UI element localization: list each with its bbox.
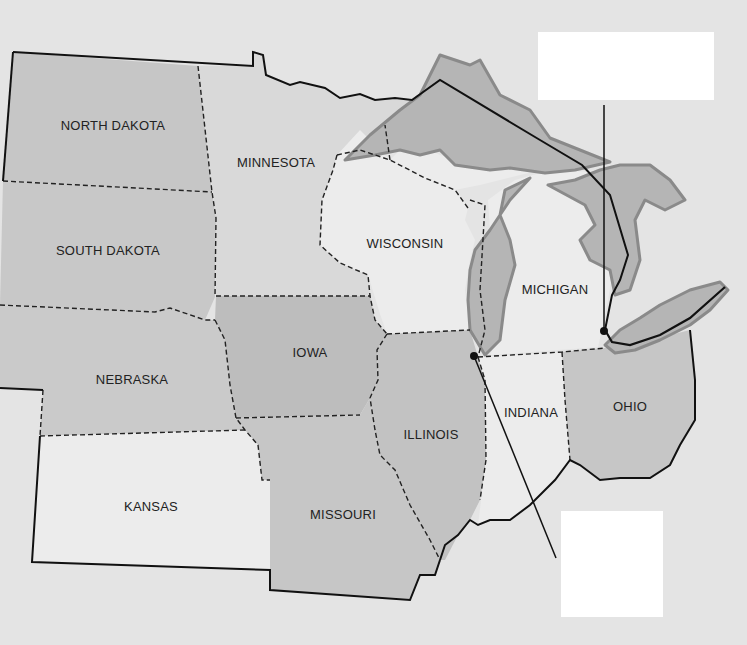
label-kansas: KANSAS bbox=[124, 499, 178, 514]
label-box-top[interactable] bbox=[538, 32, 714, 100]
label-illinois: ILLINOIS bbox=[403, 427, 458, 442]
label-missouri: MISSOURI bbox=[310, 507, 376, 522]
label-indiana: INDIANA bbox=[504, 405, 558, 420]
label-south-dakota: SOUTH DAKOTA bbox=[56, 243, 160, 258]
midwest-map: NORTH DAKOTA MINNESOTA SOUTH DAKOTA WISC… bbox=[0, 0, 747, 645]
marker-chicago-dot bbox=[470, 352, 478, 360]
label-box-bottom[interactable] bbox=[561, 511, 663, 617]
state-indiana bbox=[478, 352, 570, 525]
label-minnesota: MINNESOTA bbox=[237, 155, 315, 170]
label-michigan: MICHIGAN bbox=[522, 282, 589, 297]
marker-detroit-dot bbox=[600, 327, 608, 335]
label-nebraska: NEBRASKA bbox=[96, 372, 168, 387]
label-wisconsin: WISCONSIN bbox=[367, 236, 444, 251]
label-ohio: OHIO bbox=[613, 399, 647, 414]
label-iowa: IOWA bbox=[293, 345, 328, 360]
label-north-dakota: NORTH DAKOTA bbox=[61, 118, 165, 133]
state-nebraska bbox=[0, 305, 245, 436]
